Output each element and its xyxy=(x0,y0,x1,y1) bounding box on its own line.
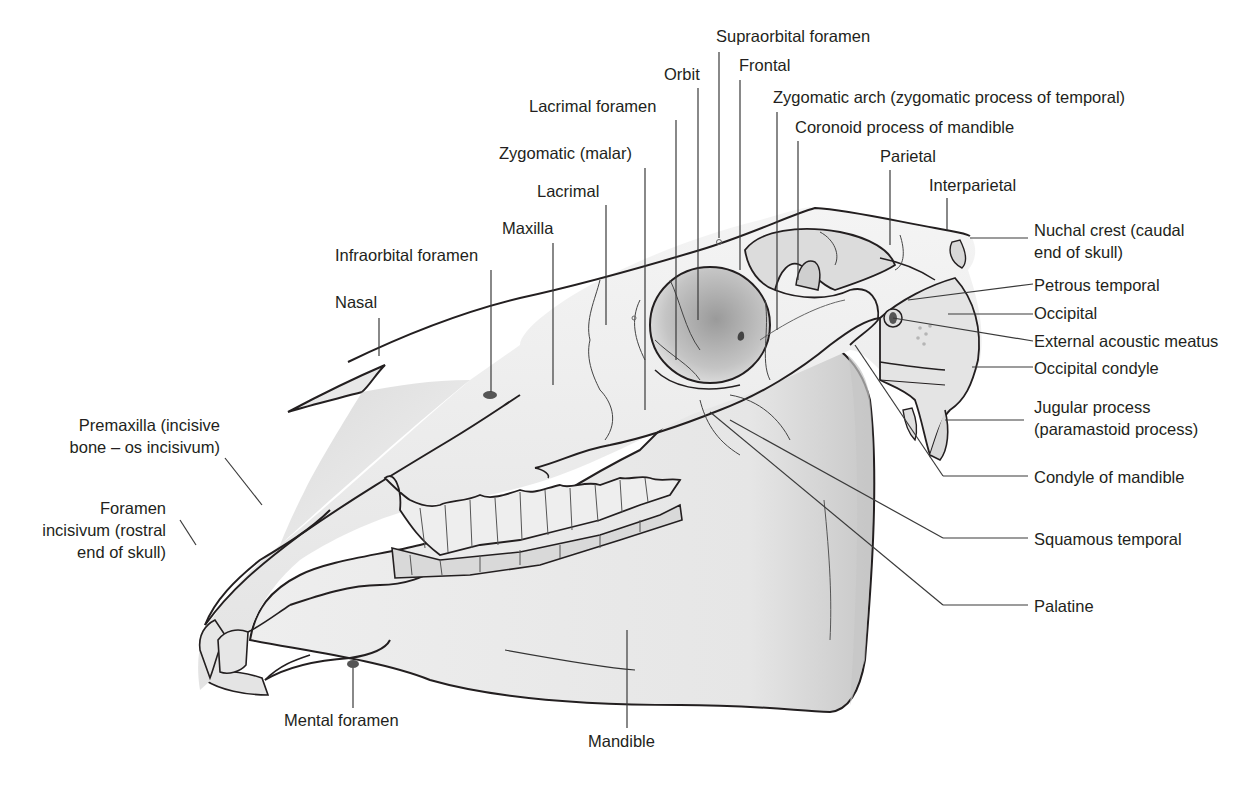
label-premaxilla-line1: Premaxilla (incisive xyxy=(40,415,220,435)
label-orbit: Orbit xyxy=(664,64,700,84)
label-supraorbital-foramen: Supraorbital foramen xyxy=(716,26,870,46)
label-nasal: Nasal xyxy=(335,292,377,312)
label-external-acoustic-meatus: External acoustic meatus xyxy=(1034,331,1218,351)
label-premaxilla-line2: bone – os incisivum) xyxy=(40,437,220,457)
skull-illustration xyxy=(0,0,1260,785)
label-interparietal: Interparietal xyxy=(929,175,1016,195)
label-occipital: Occipital xyxy=(1034,303,1097,323)
label-petrous-temporal: Petrous temporal xyxy=(1034,275,1160,295)
label-squamous-temporal: Squamous temporal xyxy=(1034,529,1182,549)
label-mental-foramen: Mental foramen xyxy=(284,710,399,730)
label-parietal: Parietal xyxy=(880,146,936,166)
label-nuchal-crest-line1: Nuchal crest (caudal xyxy=(1034,220,1184,240)
label-palatine: Palatine xyxy=(1034,596,1094,616)
label-zygomatic-arch: Zygomatic arch (zygomatic process of tem… xyxy=(773,87,1125,107)
label-foramen-incisivum-line2: incisivum (rostral xyxy=(20,520,166,540)
infraorbital-foramen-dot xyxy=(483,391,497,399)
label-frontal: Frontal xyxy=(739,55,790,75)
label-infraorbital-foramen: Infraorbital foramen xyxy=(335,245,478,265)
label-foramen-incisivum-line3: end of skull) xyxy=(20,542,166,562)
label-nuchal-crest-line2: end of skull) xyxy=(1034,242,1123,262)
label-condyle-of-mandible: Condyle of mandible xyxy=(1034,467,1184,487)
label-mandible: Mandible xyxy=(588,731,655,751)
horse-skull-diagram: Supraorbital foramen Orbit Frontal Zygom… xyxy=(0,0,1260,785)
label-lacrimal: Lacrimal xyxy=(537,181,599,201)
label-maxilla: Maxilla xyxy=(502,218,553,238)
label-occipital-condyle: Occipital condyle xyxy=(1034,358,1159,378)
label-zygomatic-malar: Zygomatic (malar) xyxy=(499,143,632,163)
mental-foramen-dot xyxy=(347,660,359,668)
label-jugular-process-line2: (paramastoid process) xyxy=(1034,419,1198,439)
label-coronoid-process: Coronoid process of mandible xyxy=(795,117,1014,137)
label-foramen-incisivum-line1: Foramen xyxy=(20,498,166,518)
label-lacrimal-foramen: Lacrimal foramen xyxy=(529,96,656,116)
label-jugular-process-line1: Jugular process xyxy=(1034,397,1150,417)
